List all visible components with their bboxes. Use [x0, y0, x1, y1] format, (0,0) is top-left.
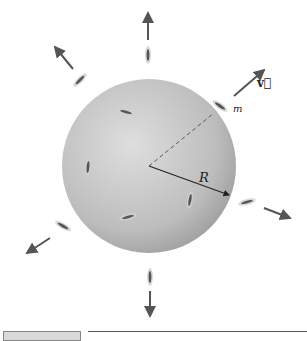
molecule-escaping — [54, 219, 73, 233]
radius-label: R — [199, 170, 209, 185]
figure-caption-rule — [88, 331, 307, 332]
mass-label: m — [233, 103, 242, 114]
molecule-escaping — [72, 72, 89, 89]
velocity-arrow — [264, 208, 290, 218]
figure-label-box — [3, 331, 81, 341]
velocity-arrow — [27, 238, 50, 253]
molecule-escaping — [238, 197, 257, 207]
molecule-escaping — [147, 268, 153, 286]
molecule-escaping — [145, 46, 151, 64]
velocity-arrow — [55, 47, 73, 69]
velocity-label: v⃗ — [257, 76, 271, 90]
